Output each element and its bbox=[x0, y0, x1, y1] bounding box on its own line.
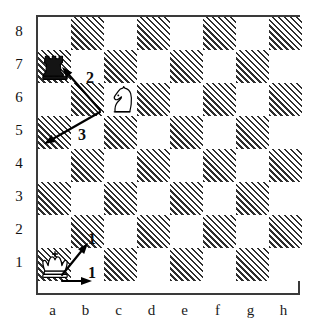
square-a5[interactable] bbox=[38, 116, 71, 149]
square-a8[interactable] bbox=[38, 17, 71, 50]
square-c8[interactable] bbox=[104, 17, 137, 50]
square-c3[interactable] bbox=[104, 182, 137, 215]
square-g3[interactable] bbox=[236, 182, 269, 215]
square-g1[interactable] bbox=[236, 248, 269, 281]
square-d1[interactable] bbox=[137, 248, 170, 281]
square-e8[interactable] bbox=[170, 17, 203, 50]
rank-label-8: 8 bbox=[8, 24, 30, 39]
square-e2[interactable] bbox=[170, 215, 203, 248]
square-d3[interactable] bbox=[137, 182, 170, 215]
square-d5[interactable] bbox=[137, 116, 170, 149]
square-a1[interactable] bbox=[38, 248, 71, 281]
file-label-c: c bbox=[102, 303, 135, 318]
square-f1[interactable] bbox=[203, 248, 236, 281]
rank-label-2: 2 bbox=[8, 222, 30, 237]
square-e3[interactable] bbox=[170, 182, 203, 215]
square-c7[interactable] bbox=[104, 50, 137, 83]
square-c4[interactable] bbox=[104, 149, 137, 182]
square-g5[interactable] bbox=[236, 116, 269, 149]
square-c6[interactable] bbox=[104, 83, 137, 116]
rank-label-1: 1 bbox=[8, 255, 30, 270]
rank-label-7: 7 bbox=[8, 57, 30, 72]
square-h2[interactable] bbox=[269, 215, 302, 248]
square-d7[interactable] bbox=[137, 50, 170, 83]
square-d8[interactable] bbox=[137, 17, 170, 50]
file-label-f: f bbox=[201, 303, 234, 318]
square-e1[interactable] bbox=[170, 248, 203, 281]
square-d6[interactable] bbox=[137, 83, 170, 116]
square-h4[interactable] bbox=[269, 149, 302, 182]
square-h3[interactable] bbox=[269, 182, 302, 215]
square-e6[interactable] bbox=[170, 83, 203, 116]
square-f5[interactable] bbox=[203, 116, 236, 149]
square-f4[interactable] bbox=[203, 149, 236, 182]
square-d2[interactable] bbox=[137, 215, 170, 248]
square-b6[interactable] bbox=[71, 83, 104, 116]
square-g6[interactable] bbox=[236, 83, 269, 116]
file-label-h: h bbox=[267, 303, 300, 318]
rank-label-6: 6 bbox=[8, 90, 30, 105]
square-f8[interactable] bbox=[203, 17, 236, 50]
square-h5[interactable] bbox=[269, 116, 302, 149]
move-label-1-upper: 1 bbox=[84, 231, 100, 247]
square-f6[interactable] bbox=[203, 83, 236, 116]
file-label-a: a bbox=[36, 303, 69, 318]
file-label-g: g bbox=[234, 303, 267, 318]
square-h8[interactable] bbox=[269, 17, 302, 50]
square-a6[interactable] bbox=[38, 83, 71, 116]
chess-diagram: 87654321 abcdefgh 2311 bbox=[0, 0, 319, 334]
square-a7[interactable] bbox=[38, 50, 71, 83]
square-g4[interactable] bbox=[236, 149, 269, 182]
square-b4[interactable] bbox=[71, 149, 104, 182]
square-f7[interactable] bbox=[203, 50, 236, 83]
square-h6[interactable] bbox=[269, 83, 302, 116]
chessboard[interactable] bbox=[36, 15, 300, 295]
file-label-b: b bbox=[69, 303, 102, 318]
square-e7[interactable] bbox=[170, 50, 203, 83]
square-e4[interactable] bbox=[170, 149, 203, 182]
move-label-3: 3 bbox=[74, 127, 90, 143]
square-h1[interactable] bbox=[269, 248, 302, 281]
square-b8[interactable] bbox=[71, 17, 104, 50]
rank-label-5: 5 bbox=[8, 123, 30, 138]
square-f2[interactable] bbox=[203, 215, 236, 248]
square-c2[interactable] bbox=[104, 215, 137, 248]
file-label-d: d bbox=[135, 303, 168, 318]
square-c5[interactable] bbox=[104, 116, 137, 149]
move-label-1-lower: 1 bbox=[84, 265, 100, 281]
square-b3[interactable] bbox=[71, 182, 104, 215]
square-a3[interactable] bbox=[38, 182, 71, 215]
square-c1[interactable] bbox=[104, 248, 137, 281]
square-a2[interactable] bbox=[38, 215, 71, 248]
square-a4[interactable] bbox=[38, 149, 71, 182]
move-label-2: 2 bbox=[82, 70, 98, 86]
square-e5[interactable] bbox=[170, 116, 203, 149]
square-g2[interactable] bbox=[236, 215, 269, 248]
square-f3[interactable] bbox=[203, 182, 236, 215]
square-d4[interactable] bbox=[137, 149, 170, 182]
rank-label-4: 4 bbox=[8, 156, 30, 171]
file-label-e: e bbox=[168, 303, 201, 318]
square-g8[interactable] bbox=[236, 17, 269, 50]
square-g7[interactable] bbox=[236, 50, 269, 83]
rank-label-3: 3 bbox=[8, 189, 30, 204]
square-grid bbox=[38, 17, 298, 293]
square-h7[interactable] bbox=[269, 50, 302, 83]
